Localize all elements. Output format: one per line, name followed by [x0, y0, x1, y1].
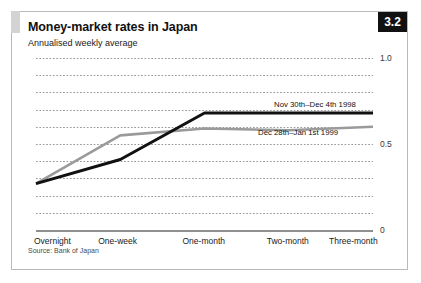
y-axis-tick-label: 0.5 — [380, 139, 392, 149]
chart-title: Money-market rates in Japan — [28, 20, 198, 34]
chart-number-badge: 3.2 — [378, 12, 407, 32]
x-axis-tick-label: Overnight — [34, 236, 71, 246]
accent-square — [11, 11, 20, 33]
series-line-dark — [36, 113, 373, 184]
y-axis-tick-label: 0 — [380, 225, 385, 235]
x-axis-tick-label: Three-month — [329, 236, 378, 246]
x-axis-tick-label: One-week — [98, 236, 137, 246]
x-axis-line — [36, 230, 373, 232]
x-axis-tick-label: Two-month — [267, 236, 309, 246]
chart-subtitle: Annualised weekly average — [28, 38, 138, 48]
series-label-dark: Nov 30th–Dec 4th 1998 — [274, 100, 356, 109]
x-axis-tick-label: One-month — [183, 236, 226, 246]
series-label-light: Dec 28th–Jan 1st 1999 — [258, 128, 338, 137]
source-note: Source: Bank of Japan — [28, 247, 99, 254]
y-axis-tick-label: 1.0 — [380, 53, 392, 63]
series-lines — [36, 58, 373, 230]
